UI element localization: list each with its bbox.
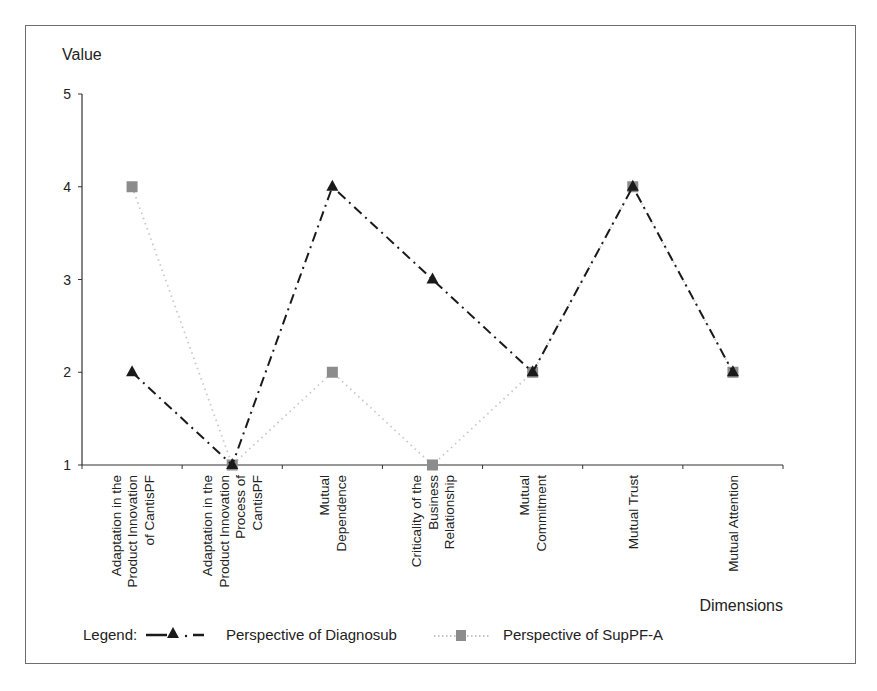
- y-tick-label: 4: [63, 179, 71, 195]
- square-marker-icon: [427, 460, 438, 471]
- svg-text:Adaptation in the: Adaptation in the: [200, 475, 215, 576]
- svg-text:of CantisPF: of CantisPF: [142, 475, 157, 546]
- x-category-label: Mutual Attention: [726, 475, 741, 572]
- svg-text:Relationship: Relationship: [442, 475, 457, 549]
- svg-text:Criticality of the: Criticality of the: [409, 475, 424, 567]
- square-marker-icon: [127, 181, 138, 192]
- svg-text:Mutual Trust: Mutual Trust: [626, 475, 641, 550]
- legend-swatch-diagnosub: [146, 627, 204, 638]
- svg-text:Product Innovation: Product Innovation: [125, 475, 140, 588]
- x-axis-category-labels: Adaptation in theProduct Innovationof Ca…: [109, 475, 741, 588]
- legend: Legend: Perspective of Diagnosub Perspec…: [83, 626, 663, 643]
- svg-text:Dependence: Dependence: [334, 475, 349, 552]
- square-marker-icon: [456, 630, 466, 641]
- x-category-label: Criticality of theBusinessRelationship: [409, 475, 457, 568]
- svg-text:Product Innovation: Product Innovation: [217, 475, 232, 588]
- series-layer: [126, 180, 739, 471]
- y-axis-title: Value: [62, 46, 102, 63]
- y-tick-label: 1: [63, 457, 71, 473]
- svg-text:Process of: Process of: [233, 475, 248, 539]
- line-chart: Value 12345 Adaptation in theProduct Inn…: [0, 0, 877, 691]
- svg-text:Mutual: Mutual: [317, 475, 332, 516]
- svg-text:CantisPF: CantisPF: [250, 475, 265, 531]
- svg-text:Mutual: Mutual: [517, 475, 532, 516]
- series-line: [132, 187, 733, 465]
- y-axis-ticks: 12345: [63, 86, 82, 473]
- legend-swatch-suppf: [434, 630, 490, 641]
- triangle-marker-icon: [167, 627, 179, 638]
- square-marker-icon: [327, 367, 338, 378]
- legend-prefix: Legend:: [83, 626, 137, 643]
- y-tick-label: 5: [63, 86, 71, 102]
- x-category-label: MutualCommitment: [517, 475, 549, 552]
- x-category-label: Adaptation in theProduct Innovationof Ca…: [109, 475, 157, 588]
- series-suppf-a: [127, 181, 739, 470]
- x-category-label: MutualDependence: [317, 475, 349, 552]
- svg-text:Adaptation in the: Adaptation in the: [109, 475, 124, 576]
- x-category-label: Adaptation in theProduct InnovationProce…: [200, 475, 265, 588]
- triangle-marker-icon: [326, 180, 338, 191]
- svg-text:Business: Business: [426, 475, 441, 530]
- triangle-marker-icon: [126, 365, 138, 376]
- svg-text:Mutual Attention: Mutual Attention: [726, 475, 741, 572]
- svg-text:Commitment: Commitment: [534, 475, 549, 552]
- x-category-label: Mutual Trust: [626, 475, 641, 550]
- y-tick-label: 2: [63, 364, 71, 380]
- legend-label-suppf: Perspective of SupPF-A: [503, 626, 663, 643]
- y-tick-label: 3: [63, 272, 71, 288]
- x-axis-title: Dimensions: [699, 597, 783, 614]
- triangle-marker-icon: [427, 273, 439, 284]
- series-line: [132, 187, 733, 465]
- legend-label-diagnosub: Perspective of Diagnosub: [226, 626, 397, 643]
